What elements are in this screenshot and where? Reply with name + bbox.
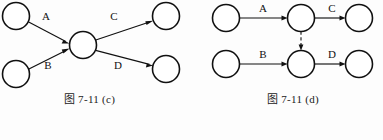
edge-c-arrowhead — [340, 16, 346, 21]
edge-c-arrowhead — [145, 21, 153, 25]
edge-a-arrowhead — [282, 16, 288, 21]
node-center — [70, 32, 97, 59]
edge-label-c: C — [328, 2, 335, 14]
figure-d: A C B D 图 7-11 (d) — [191, 0, 383, 140]
node-source-bottom — [3, 61, 30, 88]
node-bottom-end — [346, 51, 373, 78]
edge-b-arrowhead — [62, 49, 70, 54]
node-source-top — [3, 3, 30, 30]
edge-d-arrowhead — [340, 62, 346, 67]
edge-label-c: C — [110, 10, 117, 22]
figure-d-caption: 图 7-11 (d) — [197, 90, 383, 106]
node-top-end — [346, 5, 373, 32]
edge-d-line — [96, 50, 150, 64]
edge-label-b: B — [44, 59, 51, 71]
node-sink-bottom — [153, 56, 180, 83]
edge-label-b: B — [259, 48, 266, 60]
edge-label-a: A — [42, 10, 50, 22]
node-bottom-middle — [288, 51, 315, 78]
edge-dashed-dependency-arrowhead — [299, 45, 304, 51]
edge-label-a: A — [259, 2, 267, 14]
figure-c: A B C D 图 7-11 (c) — [0, 0, 191, 140]
edge-label-d: D — [114, 59, 122, 71]
node-top-start — [213, 5, 240, 32]
node-top-middle — [288, 5, 315, 32]
diagram-c-canvas: A B C D — [0, 0, 191, 90]
node-sink-top — [153, 3, 180, 30]
figure-c-caption: 图 7-11 (c) — [0, 90, 185, 106]
edge-label-d: D — [328, 48, 336, 60]
edge-b-arrowhead — [282, 62, 288, 67]
edge-c-line — [96, 22, 150, 40]
diagram-d-canvas: A C B D — [191, 0, 383, 90]
edge-a-line — [28, 22, 66, 42]
node-bottom-start — [213, 51, 240, 78]
